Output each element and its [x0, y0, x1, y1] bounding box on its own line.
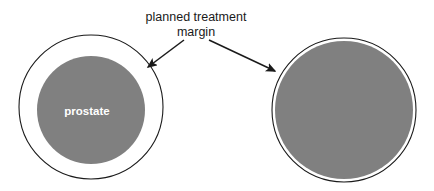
annotation-group: planned treatment margin	[146, 10, 247, 39]
right-figure-group	[272, 38, 416, 182]
right-prostate-circle	[275, 41, 413, 179]
prostate-label: prostate	[64, 105, 109, 117]
left-figure-group: prostate	[19, 35, 163, 179]
annotation-line-1: planned treatment	[146, 10, 247, 24]
left-arrow	[148, 40, 184, 67]
diagram-svg: prostate planned treatment margin	[0, 0, 434, 191]
right-arrow	[209, 40, 275, 71]
diagram-canvas: prostate planned treatment margin	[0, 0, 434, 191]
annotation-line-2: margin	[177, 25, 215, 39]
